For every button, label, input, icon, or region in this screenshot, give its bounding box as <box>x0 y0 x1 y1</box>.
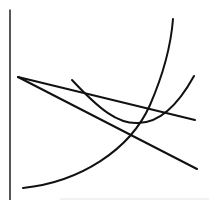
exponential-rising-curve <box>23 19 173 188</box>
flat-downward-line <box>18 77 195 120</box>
line-diagram <box>0 0 209 200</box>
